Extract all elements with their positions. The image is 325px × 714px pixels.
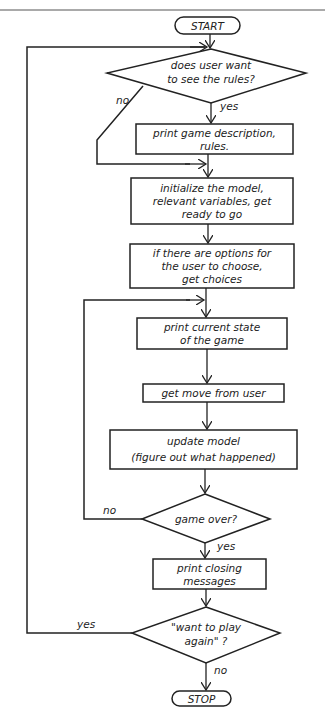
step-initialize-line-1: initialize the model, bbox=[160, 182, 264, 194]
decision-game-over-line-1: game over? bbox=[175, 513, 238, 525]
step-print-state-line-2: of the game bbox=[180, 334, 244, 346]
play-again-no-label: no bbox=[214, 664, 227, 676]
step-get-options-line-2: the user to choose, bbox=[161, 260, 262, 272]
step-update-model-line-1: update model bbox=[167, 435, 240, 447]
step-update-model: update model (figure out what happened) bbox=[110, 430, 297, 469]
step-print-rules-line-1: print game description, bbox=[152, 127, 276, 139]
step-initialize: initialize the model, relevant variables… bbox=[131, 178, 293, 224]
decision-see-rules: does user want to see the rules? bbox=[107, 49, 306, 103]
step-get-move-line-1: get move from user bbox=[161, 387, 266, 399]
step-print-rules: print game description, rules. bbox=[136, 124, 293, 154]
step-get-options-line-3: get choices bbox=[182, 273, 243, 285]
step-get-options-line-1: if there are options for bbox=[153, 247, 272, 259]
play-again-yes-label: yes bbox=[76, 618, 96, 630]
step-initialize-line-2: relevant variables, get bbox=[153, 195, 273, 207]
see-rules-yes-label: yes bbox=[219, 100, 239, 112]
step-update-model-line-2: (figure out what happened) bbox=[131, 451, 276, 463]
start-label: START bbox=[191, 20, 226, 32]
decision-play-again-line-1: "want to play bbox=[171, 621, 242, 633]
step-print-state-line-1: print current state bbox=[163, 321, 260, 333]
decision-play-again: "want to play again" ? bbox=[132, 607, 280, 663]
step-initialize-line-3: ready to go bbox=[182, 208, 242, 220]
flowchart-canvas: START does user want to see the rules? n… bbox=[0, 0, 325, 714]
step-get-move: get move from user bbox=[143, 384, 284, 402]
decision-see-rules-line-2: to see the rules? bbox=[167, 73, 255, 85]
step-print-state: print current state of the game bbox=[137, 318, 287, 349]
step-closing-line-1: print closing bbox=[176, 562, 242, 574]
stop-label: STOP bbox=[188, 693, 216, 705]
decision-game-over: game over? bbox=[142, 494, 270, 543]
game-over-yes-label: yes bbox=[216, 540, 236, 552]
decision-see-rules-line-1: does user want bbox=[171, 59, 252, 71]
step-closing-line-2: messages bbox=[183, 575, 236, 587]
start-terminal: START bbox=[175, 17, 240, 34]
step-get-options: if there are options for the user to cho… bbox=[130, 244, 294, 288]
stop-terminal: STOP bbox=[172, 691, 231, 706]
game-over-no-label: no bbox=[103, 504, 116, 516]
step-print-rules-line-2: rules. bbox=[200, 140, 229, 152]
step-closing-messages: print closing messages bbox=[153, 559, 266, 589]
decision-play-again-line-2: again" ? bbox=[185, 635, 228, 647]
